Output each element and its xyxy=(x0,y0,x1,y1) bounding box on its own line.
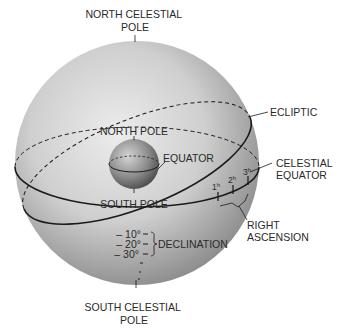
ecliptic-leader xyxy=(248,112,268,117)
earth xyxy=(109,139,159,189)
declination-30-label: – 30° xyxy=(114,248,139,260)
celestial-equator-label: CELESTIAL EQUATOR xyxy=(276,157,335,181)
north-pole-label: NORTH POLE xyxy=(100,125,168,137)
south-pole-label: SOUTH POLE xyxy=(100,198,168,210)
south-celestial-pole-label: SOUTH CELESTIAL POLE xyxy=(85,301,184,326)
north-celestial-pole-label: NORTH CELESTIAL POLE xyxy=(85,8,184,33)
celestial-sphere-diagram: NORTH CELESTIAL POLE ECLIPTIC NORTH POLE… xyxy=(0,0,341,334)
right-ascension-label: RIGHT ASCENSION xyxy=(247,219,309,243)
declination-label: DECLINATION xyxy=(158,238,228,250)
ecliptic-label: ECLIPTIC xyxy=(270,106,318,118)
equator-label: EQUATOR xyxy=(163,152,214,164)
